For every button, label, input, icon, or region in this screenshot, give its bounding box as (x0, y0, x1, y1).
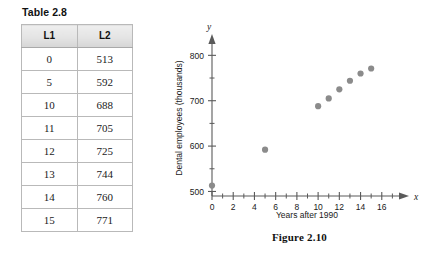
y-axis-arrow-icon (208, 34, 215, 44)
data-point-group (209, 65, 374, 188)
table-cell-l1: 13 (22, 163, 78, 186)
table-body: 0 513 5 592 10 688 11 705 12 725 13 744 (22, 48, 133, 232)
y-axis-title: Dental employees (thousands) (174, 60, 184, 175)
data-point (368, 65, 374, 71)
data-point (209, 182, 215, 188)
y-tick-label: 800 (190, 51, 204, 61)
table-cell-l2: 705 (77, 117, 133, 140)
table-cell-l1: 0 (22, 48, 78, 71)
table-cell-l1: 10 (22, 94, 78, 117)
table-cell-l1: 11 (22, 117, 78, 140)
table-cell-l2: 513 (77, 48, 133, 71)
data-point (336, 86, 342, 92)
table-cell-l2: 771 (77, 209, 133, 232)
table-row: 11 705 (22, 117, 133, 140)
y-tick-label: 600 (190, 141, 204, 151)
data-point (326, 95, 332, 101)
y-tick-label: 500 (190, 187, 204, 197)
x-tick-label: 2 (231, 202, 236, 212)
x-tick-label: 4 (252, 202, 257, 212)
table-caption: Table 2.8 (22, 6, 141, 18)
table-cell-l1: 14 (22, 186, 78, 209)
scatter-plot: y x 0246810121416 500600700800 Years aft… (160, 0, 439, 231)
table-row: 12 725 (22, 140, 133, 163)
x-axis-ticks: 0246810121416 (210, 192, 393, 212)
x-tick-label: 16 (377, 202, 387, 212)
data-point (262, 147, 268, 153)
table-cell-l1: 5 (22, 71, 78, 94)
x-axis-title: Years after 1990 (276, 210, 338, 220)
table-row: 5 592 (22, 71, 133, 94)
scatter-figure-block: y x 0246810121416 500600700800 Years aft… (160, 0, 439, 265)
table-cell-l2: 688 (77, 94, 133, 117)
table-row: 15 771 (22, 209, 133, 232)
table-row: 10 688 (22, 94, 133, 117)
data-point (315, 103, 321, 109)
table-figure-block: Table 2.8 L1 L2 0 513 5 592 10 688 11 7 (21, 6, 141, 232)
x-tick-label: 0 (210, 202, 215, 212)
table-cell-l2: 744 (77, 163, 133, 186)
data-point (347, 78, 353, 84)
table-cell-l2: 725 (77, 140, 133, 163)
table-cell-l1: 15 (22, 209, 78, 232)
table-column-header-l2: L2 (77, 25, 133, 48)
table-header-row: L1 L2 (22, 25, 133, 48)
table-cell-l2: 592 (77, 71, 133, 94)
data-table: L1 L2 0 513 5 592 10 688 11 705 12 (21, 24, 133, 232)
table-column-header-l1: L1 (22, 25, 78, 48)
table-row: 0 513 (22, 48, 133, 71)
data-point (357, 70, 363, 76)
table-row: 13 744 (22, 163, 133, 186)
table-row: 14 760 (22, 186, 133, 209)
x-axis-arrow-icon (399, 192, 409, 199)
y-tick-label: 700 (190, 96, 204, 106)
x-axis-variable-label: x (413, 192, 419, 202)
table-cell-l2: 760 (77, 186, 133, 209)
x-tick-label: 14 (356, 202, 366, 212)
figure-caption: Figure 2.10 (160, 231, 439, 243)
table-cell-l1: 12 (22, 140, 78, 163)
y-axis-variable-label: y (206, 22, 212, 32)
